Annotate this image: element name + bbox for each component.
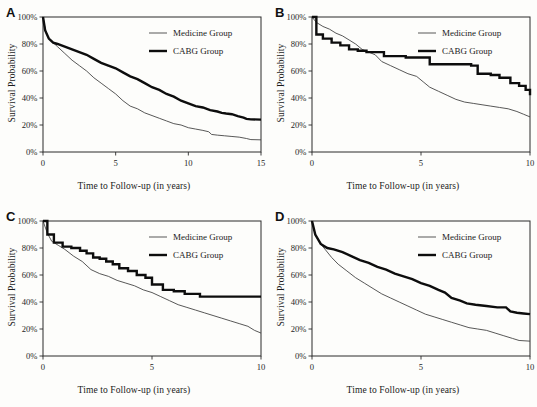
y-tick-label: 40% [291, 297, 307, 307]
y-tick-label: 20% [291, 324, 307, 334]
y-tick-label: 80% [291, 39, 307, 49]
y-tick-label: 60% [291, 270, 307, 280]
x-tick-label: 0 [310, 158, 314, 168]
y-tick-label: 0% [295, 147, 306, 157]
x-axis-label-b: Time to Follow-up (in years) [269, 181, 537, 191]
x-tick-label: 10 [184, 158, 193, 168]
y-tick-label: 60% [22, 66, 38, 76]
x-axis-label-a: Time to Follow-up (in years) [0, 181, 268, 191]
y-tick-label: 0% [26, 147, 37, 157]
x-axis-label-d: Time to Follow-up (in years) [269, 385, 537, 395]
plot-svg-d: 0%20%40%60%80%100%0510Medicine GroupCABG… [269, 204, 537, 379]
x-axis-label-c: Time to Follow-up (in years) [0, 385, 268, 395]
x-tick-label: 5 [419, 158, 423, 168]
plot-svg-c: 0%20%40%60%80%100%0510Medicine GroupCABG… [0, 204, 268, 379]
y-tick-label: 80% [291, 243, 307, 253]
x-tick-label: 10 [526, 362, 535, 372]
x-tick-label: 10 [257, 362, 266, 372]
y-tick-label: 0% [26, 351, 37, 361]
panel-a: A Survival Probability 0%20%40%60%80%100… [0, 0, 268, 203]
figure-survival-panels: A Survival Probability 0%20%40%60%80%100… [0, 0, 537, 407]
y-tick-label: 80% [22, 243, 38, 253]
legend-label-medicine: Medicine Group [442, 28, 502, 38]
x-tick-label: 10 [526, 158, 535, 168]
y-tick-label: 0% [295, 351, 306, 361]
legend-label-cabg: CABG Group [173, 250, 224, 260]
y-tick-label: 100% [286, 12, 306, 22]
panel-c: C Survival Probability 0%20%40%60%80%100… [0, 204, 268, 407]
y-tick-label: 100% [17, 216, 37, 226]
legend-label-cabg: CABG Group [442, 250, 493, 260]
y-tick-label: 40% [291, 93, 307, 103]
x-tick-label: 15 [257, 158, 266, 168]
plot-svg-a: 0%20%40%60%80%100%051015Medicine GroupCA… [0, 0, 268, 175]
plot-svg-b: 0%20%40%60%80%100%0510Medicine GroupCABG… [269, 0, 537, 175]
y-tick-label: 100% [286, 216, 306, 226]
legend-label-medicine: Medicine Group [173, 28, 233, 38]
y-tick-label: 20% [291, 120, 307, 130]
legend-label-medicine: Medicine Group [442, 232, 502, 242]
x-tick-label: 0 [41, 158, 45, 168]
legend-label-cabg: CABG Group [173, 46, 224, 56]
x-tick-label: 0 [41, 362, 45, 372]
panel-d: D Survival Probability 0%20%40%60%80%100… [269, 204, 537, 407]
x-tick-label: 5 [419, 362, 423, 372]
panel-b: B Survival Probability 0%20%40%60%80%100… [269, 0, 537, 203]
y-tick-label: 60% [22, 270, 38, 280]
y-tick-label: 100% [17, 12, 37, 22]
legend-label-cabg: CABG Group [442, 46, 493, 56]
y-tick-label: 60% [291, 66, 307, 76]
y-tick-label: 20% [22, 120, 38, 130]
x-tick-label: 5 [114, 158, 118, 168]
y-tick-label: 80% [22, 39, 38, 49]
x-tick-label: 5 [150, 362, 154, 372]
x-tick-label: 0 [310, 362, 314, 372]
y-tick-label: 40% [22, 93, 38, 103]
y-tick-label: 40% [22, 297, 38, 307]
legend-label-medicine: Medicine Group [173, 232, 233, 242]
y-tick-label: 20% [22, 324, 38, 334]
